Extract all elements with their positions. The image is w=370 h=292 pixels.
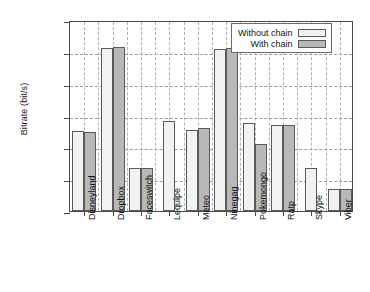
x-axis-tick xyxy=(255,211,256,216)
bar xyxy=(214,49,226,211)
x-axis-tick xyxy=(198,211,199,216)
legend-swatch xyxy=(298,29,326,37)
x-axis-tick xyxy=(340,211,341,216)
x-axis-tick xyxy=(283,211,284,216)
x-axis-tick-label: Skype xyxy=(314,195,324,220)
x-axis-tick xyxy=(141,211,142,216)
x-axis-tick-label: Meteo xyxy=(201,195,211,220)
x-axis-tick-label: Ninegag xyxy=(229,186,239,220)
bar xyxy=(271,125,283,211)
y-axis-tick xyxy=(64,54,70,55)
bar xyxy=(328,189,340,211)
x-axis-tick xyxy=(113,211,114,216)
bar xyxy=(129,168,141,211)
legend-swatch xyxy=(298,40,326,48)
y-axis-tick xyxy=(64,86,70,87)
y-axis-tick xyxy=(64,213,70,214)
bar xyxy=(72,131,84,211)
x-axis-tick-label: Ratp xyxy=(286,201,296,220)
x-axis-tick-label: Faceswitch xyxy=(144,175,154,220)
legend-item: Without chain xyxy=(238,27,326,38)
x-axis-tick xyxy=(226,211,227,216)
bar xyxy=(283,125,295,211)
x-axis-tick-label: Disneyland xyxy=(87,175,97,220)
chart-legend: Without chainWith chain xyxy=(231,23,332,53)
gridline-vertical-center xyxy=(340,22,341,211)
x-axis-tick-label: Lequipe xyxy=(172,188,182,220)
legend-label: With chain xyxy=(251,39,293,49)
x-axis-tick xyxy=(169,211,170,216)
legend-label: Without chain xyxy=(238,28,293,38)
x-axis-tick xyxy=(84,211,85,216)
y-axis-tick xyxy=(64,22,70,23)
legend-item: With chain xyxy=(238,38,326,49)
bitrate-bar-chart: Bitrate (bit/s) 010002000300040005000600… xyxy=(0,0,370,292)
x-axis-tick-label: Viber xyxy=(343,199,353,220)
bar xyxy=(186,130,198,211)
y-axis-tick xyxy=(64,118,70,119)
x-axis-tick xyxy=(311,211,312,216)
x-axis-tick-label: Pokemongo xyxy=(258,172,268,220)
bar xyxy=(243,123,255,211)
bar xyxy=(101,48,113,211)
y-axis-title: Bitrate (bit/s) xyxy=(19,49,29,169)
x-axis-tick-label: Dropbox xyxy=(116,186,126,220)
bar-group xyxy=(269,125,297,211)
